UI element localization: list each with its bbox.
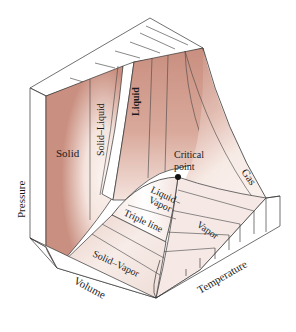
region-label-solid-liquid: Solid–Liquid xyxy=(95,103,106,156)
pvt-diagram: Pressure Volume Temperature Solid Solid–… xyxy=(0,0,296,332)
critical-point-marker xyxy=(175,174,181,180)
label-critical-point-2: point xyxy=(174,161,195,172)
region-label-solid: Solid xyxy=(56,147,80,159)
left-wall xyxy=(30,88,46,247)
region-label-liquid: Liquid xyxy=(130,87,141,116)
pvt-surface-svg: Pressure Volume Temperature Solid Solid–… xyxy=(0,0,296,332)
label-critical-point-1: Critical xyxy=(174,149,204,160)
axis-label-pressure: Pressure xyxy=(15,181,27,218)
